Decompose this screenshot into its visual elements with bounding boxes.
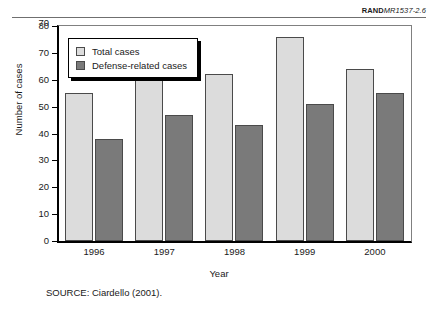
x-axis-tick-label: 1997: [129, 246, 199, 257]
source-note: SOURCE: Ciardello (2001).: [46, 287, 162, 298]
x-axis-tick-label: 2000: [340, 246, 410, 257]
bar-defense-related-cases: [376, 93, 404, 241]
bar-total-cases: [276, 37, 304, 241]
legend-swatch-defense-icon: [76, 61, 85, 70]
figure-id-prefix: RAND: [362, 6, 384, 15]
x-axis-title: Year: [0, 268, 438, 279]
legend-label-defense: Defense-related cases: [92, 60, 187, 71]
bar-total-cases: [346, 69, 374, 241]
bar-defense-related-cases: [95, 139, 123, 241]
legend-label-total: Total cases: [92, 46, 140, 57]
y-axis-tick-label: 30: [38, 154, 49, 165]
y-axis-tick-label: 80: [38, 20, 49, 31]
bar-total-cases: [65, 93, 93, 241]
legend-swatch-total-icon: [76, 47, 85, 56]
y-axis-tick-label: 10: [38, 208, 49, 219]
bar-defense-related-cases: [306, 104, 334, 241]
y-axis-ticks: 01020304050607080: [0, 25, 57, 243]
x-axis-tick-labels: 19961997199819992000: [59, 246, 410, 260]
bar-group: [199, 26, 269, 241]
header-divider: [12, 17, 426, 18]
chart-legend: Total cases Defense-related cases: [68, 38, 198, 78]
x-axis-tick-label: 1996: [59, 246, 129, 257]
x-axis-tick-label: 1998: [199, 246, 269, 257]
bar-total-cases: [205, 74, 233, 241]
bar-group: [270, 26, 340, 241]
figure-id: RANDMR1537-2.6: [362, 6, 426, 15]
y-axis-tick-label: 40: [38, 128, 49, 139]
bar-group: [340, 26, 410, 241]
x-axis-tick-label: 1999: [270, 246, 340, 257]
y-axis-tick-label: 0: [44, 235, 49, 246]
bar-defense-related-cases: [165, 115, 193, 241]
y-axis-tick-label: 60: [38, 74, 49, 85]
y-axis-tick-label: 20: [38, 181, 49, 192]
figure-id-suffix: MR1537-2.6: [384, 6, 426, 15]
y-axis-tick-label: 50: [38, 101, 49, 112]
y-axis-tick-label: 70: [38, 47, 49, 58]
legend-entry-defense: Defense-related cases: [76, 58, 187, 72]
bar-defense-related-cases: [235, 125, 263, 241]
legend-entry-total: Total cases: [76, 44, 187, 58]
bar-total-cases: [135, 77, 163, 241]
